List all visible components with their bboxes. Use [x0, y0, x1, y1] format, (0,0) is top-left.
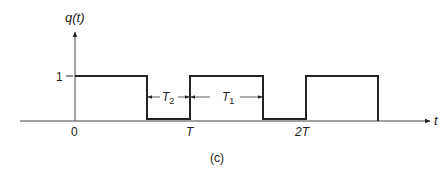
x-tick-label-2T: 2T [294, 125, 311, 139]
t2-label: T2 [162, 90, 174, 106]
x-tick-label-T: T [186, 125, 195, 139]
x-axis-label: t [434, 113, 439, 128]
x-tick-label-0: 0 [71, 125, 78, 139]
y-tick-label-1: 1 [56, 70, 63, 84]
square-wave-diagram: q(t) 1 0 T 2T t T2 T1 (c) [0, 0, 443, 170]
y-axis-label: q(t) [65, 10, 85, 25]
t1-label: T1 [222, 90, 234, 106]
figure-caption: (c) [210, 151, 224, 165]
